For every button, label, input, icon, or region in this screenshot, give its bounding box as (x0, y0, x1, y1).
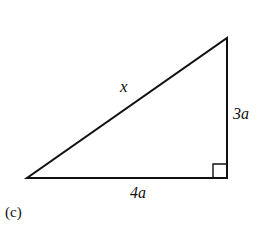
hypotenuse-label: x (120, 78, 128, 95)
right-angle-marker (213, 164, 227, 178)
vertical-leg-label: 3a (233, 106, 249, 122)
panel-label: (c) (5, 205, 22, 220)
horizontal-leg-label: 4a (130, 185, 146, 201)
right-triangle (27, 38, 227, 178)
